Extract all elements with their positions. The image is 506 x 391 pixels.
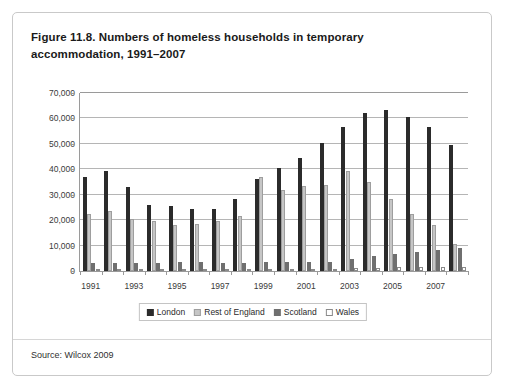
legend-label: Wales	[336, 307, 359, 317]
x-axis-tick-mark	[188, 271, 189, 275]
y-axis-tick-label: 60,000	[31, 113, 75, 123]
bar	[126, 187, 130, 271]
bar	[397, 267, 401, 271]
bar	[453, 244, 457, 271]
bar	[436, 250, 440, 271]
bar-group	[231, 93, 253, 271]
legend-label: Rest of England	[204, 307, 264, 317]
bar	[311, 269, 315, 271]
bar	[242, 263, 246, 271]
y-axis-tick-mark	[71, 118, 75, 119]
plot-area: 199119931995199719992001200320052007	[79, 93, 468, 272]
legend-swatch-icon	[147, 309, 154, 316]
bar	[152, 221, 156, 271]
bar	[108, 211, 112, 271]
bar	[203, 269, 207, 271]
bars-layer: 199119931995199719992001200320052007	[80, 93, 468, 271]
y-axis-tick-mark	[71, 144, 75, 145]
page-title: Figure 11.8. Numbers of homeless househo…	[31, 29, 451, 63]
bar	[212, 209, 216, 271]
y-axis-tick-label: 40,000	[31, 164, 75, 174]
bar-group	[317, 93, 339, 271]
bar	[307, 262, 311, 271]
bar-group: 2001	[296, 93, 318, 271]
divider	[13, 339, 491, 340]
x-axis-tick-mark	[123, 271, 124, 275]
legend-label: London	[157, 307, 185, 317]
bar	[415, 252, 419, 271]
bar	[419, 267, 423, 271]
x-axis-tick-label: 2005	[383, 281, 402, 291]
bar	[268, 269, 272, 271]
source-note: Source: Wilcox 2009	[31, 350, 114, 360]
bar-group	[274, 93, 296, 271]
legend-item[interactable]: Scotland	[274, 307, 317, 317]
x-axis-tick-mark	[252, 271, 253, 275]
bar-group: 2003	[339, 93, 361, 271]
bar	[462, 267, 466, 271]
y-axis-tick-mark	[71, 271, 75, 272]
x-axis-tick-mark	[382, 271, 383, 275]
y-axis-tick-mark	[71, 246, 75, 247]
chart-container: 010,00020,00030,00040,00050,00060,00070,…	[31, 81, 475, 331]
bar	[264, 262, 268, 271]
figure-card: Figure 11.8. Numbers of homeless househo…	[12, 12, 492, 376]
bar	[384, 110, 388, 271]
bar-group	[360, 93, 382, 271]
bar	[302, 186, 306, 271]
y-axis-tick-label: 50,000	[31, 139, 75, 149]
bar	[449, 145, 453, 271]
bar-group: 1993	[123, 93, 145, 271]
y-axis-tick-mark	[71, 169, 75, 170]
bar	[225, 269, 229, 271]
bar	[238, 216, 242, 271]
legend-label: Scotland	[284, 307, 317, 317]
x-axis-tick-mark	[339, 271, 340, 275]
bar	[104, 171, 108, 271]
bar-group: 1997	[209, 93, 231, 271]
bar	[354, 268, 358, 271]
bar	[372, 256, 376, 271]
y-axis-tick-label: 0	[31, 266, 75, 276]
legend-item[interactable]: Rest of England	[194, 307, 264, 317]
x-axis-tick-label: 2003	[340, 281, 359, 291]
bar	[156, 263, 160, 271]
bar	[389, 199, 393, 271]
legend-item[interactable]: Wales	[326, 307, 359, 317]
y-axis-tick-label: 70,000	[31, 88, 75, 98]
bar	[328, 262, 332, 271]
bar	[113, 263, 117, 271]
bar	[427, 127, 431, 271]
bar-group	[102, 93, 124, 271]
bar	[178, 262, 182, 271]
x-axis-tick-label: 2007	[426, 281, 445, 291]
bar	[216, 221, 220, 271]
bar	[298, 158, 302, 271]
bar	[173, 225, 177, 271]
bar	[367, 182, 371, 271]
x-axis-tick-mark	[317, 271, 318, 275]
x-axis-tick-mark	[145, 271, 146, 275]
bar	[91, 263, 95, 271]
x-axis-tick-label: 2001	[297, 281, 316, 291]
bar-group	[145, 93, 167, 271]
bar	[182, 269, 186, 271]
bar	[363, 113, 367, 271]
y-axis-tick-label: 20,000	[31, 215, 75, 225]
bar	[160, 269, 164, 271]
bar	[324, 185, 328, 271]
bar	[139, 269, 143, 271]
y-axis-tick-label: 30,000	[31, 190, 75, 200]
bar	[346, 171, 350, 271]
bar	[195, 224, 199, 271]
bar	[190, 209, 194, 271]
bar	[247, 269, 251, 271]
bar	[285, 262, 289, 271]
legend-item[interactable]: London	[147, 307, 185, 317]
y-axis-tick-mark	[71, 93, 75, 94]
x-axis-tick-label: 1995	[168, 281, 187, 291]
bar	[259, 177, 263, 271]
bar	[320, 143, 324, 271]
y-axis-tick-mark	[71, 195, 75, 196]
chart-legend: LondonRest of EnglandScotlandWales	[139, 303, 367, 321]
